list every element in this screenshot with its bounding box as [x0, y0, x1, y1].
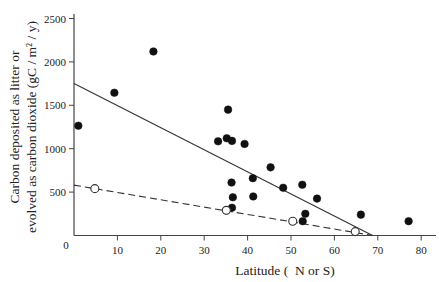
x-tick-label: 60	[329, 244, 341, 256]
x-tick-label: 50	[286, 244, 298, 256]
filled-circle-marker	[241, 140, 249, 148]
filled-circle-marker	[357, 211, 365, 219]
filled-circle-marker	[302, 210, 310, 218]
open-circle-marker	[351, 228, 359, 236]
filled-circle-marker	[224, 106, 232, 114]
filled-circle-marker	[75, 122, 83, 130]
y-tick-label: 1500	[44, 99, 67, 111]
filled-circle-marker	[249, 174, 257, 182]
filled-circle-marker	[298, 181, 306, 189]
filled-circle-marker	[299, 217, 307, 225]
ticks: 50010001500200025001020304050607080	[44, 13, 427, 256]
filled-circle-marker	[267, 164, 275, 172]
origin-label: 0	[63, 239, 69, 251]
y-tick-label: 2000	[44, 56, 67, 68]
filled-circle-marker	[214, 138, 222, 146]
x-tick-label: 80	[416, 244, 428, 256]
filled-circle-marker	[150, 48, 158, 56]
x-tick-label: 20	[155, 244, 167, 256]
filled-circle-marker	[249, 193, 257, 201]
x-tick-label: 10	[112, 244, 124, 256]
data-points	[75, 48, 413, 236]
x-tick-label: 40	[242, 244, 254, 256]
y-tick-label: 500	[50, 186, 67, 198]
y-tick-label: 1000	[44, 143, 67, 155]
x-axis-label: Latitude ( N or S)	[235, 263, 334, 278]
filled-circle-marker	[228, 179, 236, 187]
open-circle-marker	[289, 217, 297, 225]
open-circle-marker	[91, 185, 99, 193]
axes	[74, 14, 436, 236]
y-tick-label: 2500	[44, 13, 67, 25]
x-tick-label: 30	[199, 244, 211, 256]
filled-circle-marker	[111, 89, 119, 97]
open-circle-marker	[222, 206, 230, 214]
y-axis-label-line-2: evolved as carbon dioxide (gC / m² / y)	[24, 21, 39, 233]
filled-circle-marker	[279, 184, 287, 192]
y-axis-label: Carbon deposited as litter or evolved as…	[7, 21, 39, 233]
filled-circle-marker	[228, 137, 236, 145]
filled-circle-marker	[229, 194, 237, 202]
y-axis-label-line-1: Carbon deposited as litter or	[7, 50, 22, 203]
filled-circle-marker	[313, 195, 321, 203]
scatter-chart: Carbon deposited as litter or evolved as…	[0, 0, 439, 282]
x-tick-label: 70	[372, 244, 384, 256]
filled-circle-marker	[405, 217, 413, 225]
